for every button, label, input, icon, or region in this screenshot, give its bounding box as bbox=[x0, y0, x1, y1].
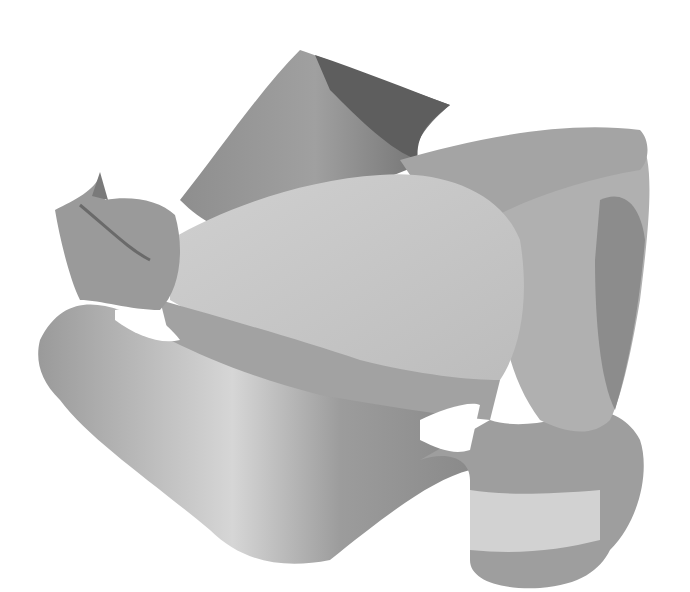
surface-rendering bbox=[0, 0, 690, 592]
surface-lower-right-highlight bbox=[470, 490, 600, 552]
surface-left-crumple bbox=[55, 175, 180, 310]
